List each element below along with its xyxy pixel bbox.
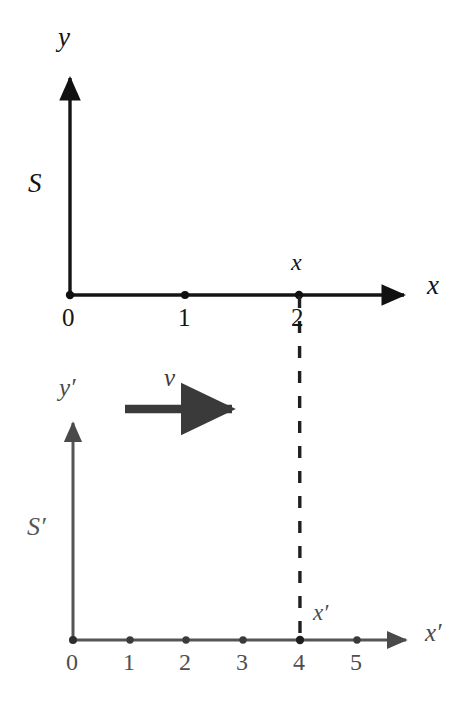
frame-s-axes [66, 78, 404, 299]
frame-s-prime-tick-dot-5 [353, 636, 360, 643]
frame-s-prime-name-label: S′ [27, 514, 46, 540]
frame-s-prime-tick-label-1: 1 [123, 650, 135, 674]
frame-s-tick-label-0: 0 [62, 305, 75, 330]
frame-s-prime-y-axis-label-base: y [59, 374, 70, 401]
velocity-vector-label: v⃗ [164, 365, 195, 390]
frame-s-prime-tick-dot-2 [182, 636, 189, 643]
frame-s-prime-tick-dot-4 [296, 636, 304, 644]
frame-s-prime-x-axis-label: x′ [425, 620, 442, 645]
frame-s-y-axis-label: y [58, 24, 70, 51]
frame-s-tick-label-1: 1 [178, 305, 191, 330]
frame-s-prime-tick-label-5: 5 [350, 650, 362, 674]
frame-s-prime-name-prime: ′ [40, 512, 46, 541]
frame-s-prime-event-label: x′ [313, 601, 328, 624]
frame-s-prime-event-label-prime: ′ [323, 600, 328, 625]
frame-s-prime-tick-label-2: 2 [179, 650, 191, 674]
reference-frames-diagram: y S x x 0 1 2 v⃗ y′ S′ x′ x′ 0 1 2 3 4 5 [0, 0, 469, 709]
frame-s-prime-name-base: S [27, 512, 40, 541]
frame-s-prime-tick-dot-0 [69, 636, 77, 644]
frame-s-tick-dot-0 [66, 291, 74, 299]
frame-s-prime-event-label-base: x [313, 600, 323, 625]
frame-s-prime-tick-label-0: 0 [66, 650, 78, 674]
frame-s-prime-y-axis-label-prime: ′ [70, 374, 75, 401]
frame-s-event-label: x [291, 250, 302, 274]
velocity-vector-symbol: v [164, 364, 195, 391]
frame-s-name-label: S [28, 170, 42, 197]
frame-s-prime-tick-dot-1 [126, 636, 133, 643]
diagram-vector-layer [0, 0, 469, 709]
frame-s-prime-x-axis-label-base: x [425, 619, 436, 646]
frame-s-prime-tick-dot-3 [239, 636, 246, 643]
frame-s-prime-y-axis-label: y′ [59, 375, 76, 400]
frame-s-prime-axes [69, 423, 406, 644]
event-connector-dashed-line [300, 296, 301, 640]
frame-s-tick-label-2: 2 [291, 305, 304, 330]
frame-s-tick-dot-1 [181, 291, 189, 299]
frame-s-prime-x-axis-label-prime: ′ [436, 619, 441, 646]
frame-s-x-axis-label: x [427, 272, 439, 299]
frame-s-prime-tick-label-3: 3 [236, 650, 248, 674]
frame-s-prime-tick-label-4: 4 [293, 650, 305, 674]
